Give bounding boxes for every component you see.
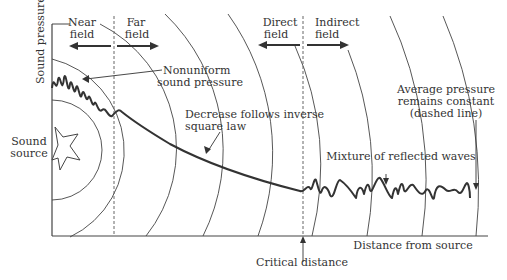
critical-distance-arrowhead-icon bbox=[300, 236, 306, 243]
far-field-label-line2: field bbox=[125, 28, 149, 41]
average-arrowhead-icon bbox=[473, 183, 479, 190]
direct-field-label-line2: field bbox=[264, 28, 288, 41]
mixture-label: Mixture of reflected waves bbox=[326, 150, 476, 163]
decrease-leader-line bbox=[208, 132, 220, 151]
wavefront-arc-3 bbox=[100, 24, 176, 236]
indirect-field-label-line2: field bbox=[315, 28, 339, 41]
y-axis-label: Sound pressure bbox=[34, 0, 47, 84]
average-label-line3: (dashed line) bbox=[410, 107, 483, 120]
near-field-label-line2: field bbox=[70, 28, 94, 41]
sound-field-diagram: Sound pressure Distance from source Near… bbox=[0, 0, 507, 280]
sound-source-label-line2: source bbox=[10, 147, 47, 160]
wavefront-arc-8 bbox=[390, 16, 426, 236]
decrease-label-line2: square law bbox=[185, 120, 247, 133]
sound-source-star-icon bbox=[52, 127, 80, 170]
critical-distance-label: Critical distance bbox=[256, 256, 348, 269]
wavefront-arc-7 bbox=[348, 50, 372, 236]
nonuniform-arrowhead-icon bbox=[82, 75, 89, 83]
wavefront-arc-9 bbox=[443, 16, 479, 236]
wavefront-arc-6 bbox=[295, 46, 321, 236]
nonuniform-label-line2: sound pressure bbox=[157, 76, 243, 89]
x-axis-label: Distance from source bbox=[353, 239, 472, 252]
nonuniform-leader-line bbox=[86, 70, 162, 79]
